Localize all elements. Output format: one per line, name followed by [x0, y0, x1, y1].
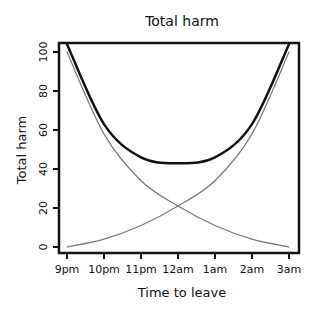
- x-tick-label: 10pm: [88, 263, 120, 276]
- x-axis-label: Time to leave: [137, 285, 226, 300]
- y-axis-label: Total harm: [14, 116, 29, 185]
- series-lines: [67, 44, 289, 247]
- x-tick-label: 2am: [240, 263, 264, 276]
- x-axis: 9pm10pm11pm12am1am2am3am: [55, 253, 302, 276]
- x-tick-label: 11pm: [125, 263, 157, 276]
- x-tick-label: 3am: [277, 263, 301, 276]
- y-tick-label: 20: [37, 201, 50, 215]
- x-tick-label: 9pm: [55, 263, 80, 276]
- x-tick-label: 1am: [203, 263, 227, 276]
- y-tick-label: 60: [37, 123, 50, 137]
- y-tick-label: 40: [37, 162, 50, 176]
- x-tick-label: 12am: [162, 263, 193, 276]
- y-axis: 020406080100: [37, 42, 59, 251]
- chart-title: Total harm: [144, 13, 219, 29]
- series-line-0: [67, 44, 289, 163]
- y-tick-label: 80: [37, 84, 50, 98]
- total-harm-chart: Total harm 020406080100 9pm10pm11pm12am1…: [0, 0, 320, 317]
- plot-frame: [59, 43, 299, 253]
- series-line-1: [67, 52, 289, 247]
- series-line-2: [67, 52, 289, 247]
- y-tick-label: 0: [37, 244, 50, 251]
- y-tick-label: 100: [37, 42, 50, 63]
